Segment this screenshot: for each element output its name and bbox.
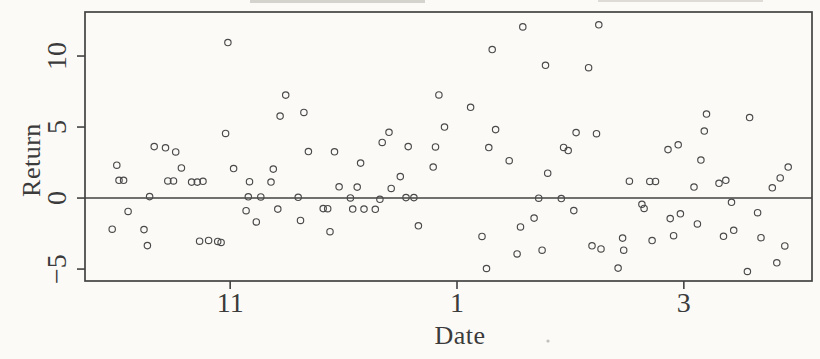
data-point	[782, 243, 788, 249]
scan-artifact	[250, 0, 425, 3]
data-point	[615, 265, 621, 271]
data-point	[173, 149, 179, 155]
data-point	[701, 128, 707, 134]
y-tick-label: 5	[41, 120, 72, 134]
data-point	[531, 215, 537, 221]
data-point	[151, 143, 157, 149]
data-point	[571, 207, 577, 213]
data-point	[754, 210, 760, 216]
data-point	[694, 221, 700, 227]
data-point	[327, 229, 333, 235]
data-point	[331, 149, 337, 155]
data-point	[723, 177, 729, 183]
data-point	[432, 144, 438, 150]
data-point	[275, 206, 281, 212]
data-point	[222, 130, 228, 136]
data-point	[691, 184, 697, 190]
data-point	[777, 175, 783, 181]
data-point	[675, 142, 681, 148]
data-point	[774, 260, 780, 266]
data-point	[246, 179, 252, 185]
data-point	[506, 158, 512, 164]
data-point	[649, 237, 655, 243]
data-point	[486, 144, 492, 150]
data-point	[297, 217, 303, 223]
x-tick-label: 11	[217, 287, 244, 318]
data-point	[350, 206, 356, 212]
data-point	[141, 226, 147, 232]
data-point	[388, 185, 394, 191]
data-point	[436, 92, 442, 98]
data-point	[354, 184, 360, 190]
data-point	[283, 92, 289, 98]
data-point	[361, 206, 367, 212]
data-point	[670, 233, 676, 239]
scan-artifact	[598, 0, 763, 2]
data-point	[698, 157, 704, 163]
data-point	[598, 246, 604, 252]
data-point	[225, 39, 231, 45]
data-point	[731, 227, 737, 233]
data-point	[728, 199, 734, 205]
data-point	[746, 114, 752, 120]
scan-speck	[546, 339, 549, 342]
data-point	[769, 185, 775, 191]
data-point	[325, 206, 331, 212]
data-point	[596, 22, 602, 28]
data-point	[144, 242, 150, 248]
data-point	[585, 65, 591, 71]
data-point	[716, 180, 722, 186]
data-point	[441, 124, 447, 130]
y-tick-label: −5	[41, 254, 72, 284]
data-point	[386, 129, 392, 135]
data-point	[520, 24, 526, 30]
data-point	[542, 62, 548, 68]
data-point	[162, 145, 168, 151]
data-point	[744, 268, 750, 274]
data-point	[405, 143, 411, 149]
data-point	[545, 170, 551, 176]
y-tick-label: 0	[41, 191, 72, 205]
x-tick-label: 3	[677, 287, 691, 318]
x-axis-title: Date	[434, 321, 485, 350]
data-point	[667, 215, 673, 221]
return-scatter-figure: Return Date −505101113	[0, 0, 820, 359]
data-point	[467, 104, 473, 110]
data-point	[305, 148, 311, 154]
data-point	[379, 139, 385, 145]
data-point	[336, 184, 342, 190]
plot-border	[85, 12, 812, 281]
data-point	[205, 237, 211, 243]
data-point	[593, 131, 599, 137]
data-point	[430, 164, 436, 170]
data-point	[372, 206, 378, 212]
data-point	[114, 162, 120, 168]
data-point	[677, 211, 683, 217]
data-point	[301, 109, 307, 115]
data-point	[514, 251, 520, 257]
data-point	[377, 196, 383, 202]
data-point	[397, 173, 403, 179]
data-point	[268, 179, 274, 185]
data-point	[357, 160, 363, 166]
data-point	[560, 144, 566, 150]
data-point	[415, 223, 421, 229]
data-point	[120, 177, 126, 183]
data-point	[178, 165, 184, 171]
data-point	[492, 126, 498, 132]
data-point	[270, 166, 276, 172]
data-point	[785, 164, 791, 170]
data-point	[539, 247, 545, 253]
data-point	[619, 235, 625, 241]
data-point	[489, 46, 495, 52]
data-point	[258, 194, 264, 200]
data-point	[277, 113, 283, 119]
data-point	[626, 178, 632, 184]
data-point	[245, 194, 251, 200]
data-point	[196, 238, 202, 244]
x-tick-label: 1	[450, 287, 464, 318]
data-point	[573, 129, 579, 135]
y-tick-label: 10	[41, 42, 72, 70]
data-point	[243, 208, 249, 214]
data-point	[230, 165, 236, 171]
